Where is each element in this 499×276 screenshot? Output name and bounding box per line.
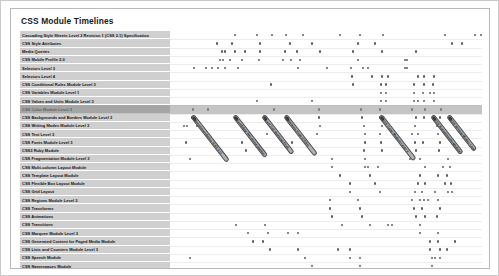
row-label: CSS Grid Layout bbox=[22, 188, 54, 195]
timeline-dot bbox=[414, 141, 417, 144]
row-label: CSS Conditional Rules Module Level 3 bbox=[22, 81, 96, 88]
timeline-dot bbox=[360, 108, 363, 111]
timeline-dot bbox=[419, 174, 422, 177]
timeline-dot bbox=[359, 207, 362, 210]
timeline-dot bbox=[429, 240, 432, 243]
timeline-dot bbox=[231, 42, 234, 45]
row-label: CSS Transforms bbox=[22, 205, 53, 212]
timeline-dot bbox=[433, 75, 436, 78]
timeline-dot bbox=[421, 207, 424, 210]
chart-frame: CSS Module Timelines Cascading Style She… bbox=[0, 0, 499, 276]
timeline-row: CSS Generated Content for Paged Media Mo… bbox=[20, 237, 482, 245]
row-label: CSS Values and Units Module Level 3 bbox=[22, 98, 94, 105]
timeline-row: CSS Writing Modes Module Level 3 bbox=[20, 122, 482, 130]
row-label: CSS Template Layout Module bbox=[22, 172, 78, 179]
timeline-row: CSS Marquee Module Level 3 bbox=[20, 229, 482, 237]
timeline-dot bbox=[192, 108, 195, 111]
row-label: CSS3 Ruby Module bbox=[22, 147, 59, 154]
timeline-dot bbox=[423, 75, 426, 78]
row-label: CSS Fonts Module Level 3 bbox=[22, 139, 73, 146]
row-label: Media Queries bbox=[22, 48, 50, 55]
timeline-dot bbox=[273, 108, 276, 111]
timeline-dot bbox=[411, 108, 414, 111]
timeline-dot bbox=[446, 174, 449, 177]
timeline-row: CSS Speech Module bbox=[20, 254, 482, 262]
page-title: CSS Module Timelines bbox=[21, 16, 114, 26]
timeline-dot bbox=[451, 42, 454, 45]
timeline-dot bbox=[374, 42, 377, 45]
timeline-dot bbox=[381, 75, 384, 78]
timeline-row: CSS Multi-column Layout Module bbox=[20, 163, 482, 171]
timeline-row: Cascading Style Sheets Level 2 Revision … bbox=[20, 31, 482, 39]
timeline-dot bbox=[440, 108, 443, 111]
timeline-row: CSS Mobile Profile 2.0 bbox=[20, 56, 482, 64]
timeline-row: CSS Backgrounds and Borders Module Level… bbox=[20, 114, 482, 122]
row-label: CSS Multi-column Layout Module bbox=[22, 164, 86, 171]
timeline-dot bbox=[357, 42, 360, 45]
row-label: CSS Writing Modes Module Level 3 bbox=[22, 122, 89, 129]
row-label: CSS Generated Content for Paged Media Mo… bbox=[22, 238, 115, 245]
timeline-dot bbox=[422, 141, 425, 144]
row-label: CSS Speech Module bbox=[22, 254, 61, 261]
timeline-row: CSS Animations bbox=[20, 213, 482, 221]
timeline-dot bbox=[329, 207, 332, 210]
timeline-dot bbox=[380, 141, 383, 144]
timeline-row: CSS Template Layout Module bbox=[20, 171, 482, 179]
row-label: CSS Marquee Module Level 3 bbox=[22, 230, 78, 237]
timeline-dot bbox=[417, 75, 420, 78]
timeline-dot bbox=[289, 42, 292, 45]
row-label: CSS Style Attributes bbox=[22, 40, 61, 47]
row-label: CSS Lists and Counters Module Level 3 bbox=[22, 246, 98, 253]
timeline-row: Selectors Level 3 bbox=[20, 64, 482, 72]
row-label: CSS Mobile Profile 2.0 bbox=[22, 56, 65, 63]
timeline-dot bbox=[439, 207, 442, 210]
row-label: CSS Regions Module Level 3 bbox=[22, 197, 77, 204]
timeline-dot bbox=[424, 108, 427, 111]
timeline-dot bbox=[369, 174, 372, 177]
timeline-dot bbox=[185, 141, 188, 144]
timeline-dot bbox=[413, 207, 416, 210]
row-label: Selectors Level 4 bbox=[22, 73, 55, 80]
timeline-row: CSS Grid Layout bbox=[20, 188, 482, 196]
timeline-row: CSS Style Attributes bbox=[20, 39, 482, 47]
timeline-dot bbox=[379, 108, 382, 111]
timeline-row: CSS Lists and Counters Module Level 3 bbox=[20, 246, 482, 254]
timeline-dot bbox=[311, 42, 314, 45]
timeline-row: CSS Flexible Box Layout Module bbox=[20, 180, 482, 188]
row-label: CSS Backgrounds and Borders Module Level… bbox=[22, 114, 112, 121]
timeline-row: CSS Namespaces Module bbox=[20, 262, 482, 269]
row-label: CSS Fragmentation Module Level 3 bbox=[22, 155, 90, 162]
row-label: CSS Transitions bbox=[22, 221, 53, 228]
timeline-row: CSS Transitions bbox=[20, 221, 482, 229]
timeline-plot-area: Cascading Style Sheets Level 2 Revision … bbox=[20, 31, 482, 264]
timeline-dot bbox=[216, 42, 219, 45]
row-label: CSS Variables Module Level 1 bbox=[22, 89, 79, 96]
timeline-dot bbox=[259, 42, 262, 45]
row-label: Selectors Level 3 bbox=[22, 65, 55, 72]
timeline-dot bbox=[291, 141, 294, 144]
timeline-dot bbox=[371, 75, 374, 78]
timeline-dot bbox=[439, 141, 442, 144]
timeline-dot bbox=[351, 75, 354, 78]
timeline-dot bbox=[387, 75, 390, 78]
timeline-dot bbox=[339, 174, 342, 177]
timeline-dot bbox=[461, 42, 464, 45]
chart-inner-border: CSS Module Timelines Cascading Style She… bbox=[10, 8, 490, 269]
row-label: CSS Text Level 3 bbox=[22, 131, 54, 138]
row-label: Cascading Style Sheets Level 2 Revision … bbox=[22, 32, 149, 39]
timeline-dot bbox=[262, 240, 265, 243]
timeline-dot bbox=[364, 141, 367, 144]
timeline-dot bbox=[252, 240, 255, 243]
timeline-dot bbox=[437, 174, 440, 177]
timeline-dot bbox=[437, 240, 440, 243]
timeline-row: Media Queries bbox=[20, 48, 482, 56]
timeline-row: Selectors Level 4 bbox=[20, 72, 482, 80]
timeline-dot bbox=[318, 108, 321, 111]
row-label: CSS Color Module Level 3 bbox=[22, 106, 72, 113]
row-label: CSS Flexible Box Layout Module bbox=[22, 180, 85, 187]
timeline-dot bbox=[207, 108, 210, 111]
row-label: CSS Animations bbox=[22, 213, 53, 220]
timeline-dot bbox=[241, 141, 244, 144]
row-label: CSS Namespaces Module bbox=[22, 263, 71, 269]
timeline-dot bbox=[454, 240, 457, 243]
